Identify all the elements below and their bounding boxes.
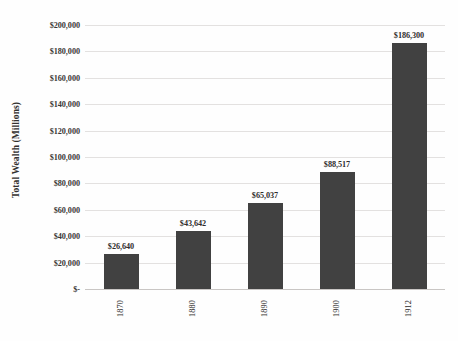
y-axis-tick-label: $140,000 (22, 100, 80, 109)
bar-group: $26,640 (104, 25, 139, 289)
x-axis-tick-label: 1880 (189, 300, 198, 317)
x-axis-tick: 1900 (301, 291, 373, 335)
x-axis-tick: 1912 (373, 291, 445, 335)
y-axis-tick-label: $- (22, 285, 80, 294)
bar-value-label: $43,642 (152, 219, 235, 228)
bar-group: $65,037 (248, 25, 283, 289)
x-axis-tick-label: 1912 (405, 300, 414, 317)
bar-value-label: $88,517 (296, 160, 379, 169)
x-axis-tick-label: 1900 (333, 300, 342, 317)
bar[interactable] (104, 254, 139, 289)
x-axis-tick: 1890 (229, 291, 301, 335)
bar[interactable] (320, 172, 355, 289)
y-axis-tick-label: $160,000 (22, 73, 80, 82)
axis-baseline (85, 289, 445, 290)
bar-group: $43,642 (176, 25, 211, 289)
x-axis-tick-label: 1870 (117, 300, 126, 317)
bar-value-label: $65,037 (224, 191, 307, 200)
y-axis-tick-label: $120,000 (22, 126, 80, 135)
bar[interactable] (176, 231, 211, 289)
plot-area: $26,640$43,642$65,037$88,517$186,300 (85, 25, 445, 289)
y-axis-tick-label: $180,000 (22, 47, 80, 56)
bar-value-label: $186,300 (368, 31, 451, 40)
y-axis-tick-labels: $200,000$180,000$160,000$140,000$120,000… (20, 25, 80, 289)
x-axis-tick: 1870 (85, 291, 157, 335)
bar[interactable] (392, 43, 427, 289)
y-axis-tick-label: $20,000 (22, 258, 80, 267)
y-axis-tick-label: $200,000 (22, 21, 80, 30)
bar[interactable] (248, 203, 283, 289)
y-axis-tick-label: $40,000 (22, 232, 80, 241)
x-axis-tick: 1880 (157, 291, 229, 335)
chart-title: Total Wealth of the United States (0, 0, 458, 2)
bar-value-label: $26,640 (80, 242, 163, 251)
bar-chart: Total Wealth of the United States Total … (0, 0, 458, 341)
y-axis-tick-label: $60,000 (22, 205, 80, 214)
bar-group: $186,300 (392, 25, 427, 289)
bar-group: $88,517 (320, 25, 355, 289)
x-axis-tick-label: 1890 (261, 300, 270, 317)
y-axis-tick-label: $80,000 (22, 179, 80, 188)
x-axis-tick-labels: 18701880189019001912 (85, 291, 445, 337)
y-axis-tick-label: $100,000 (22, 153, 80, 162)
